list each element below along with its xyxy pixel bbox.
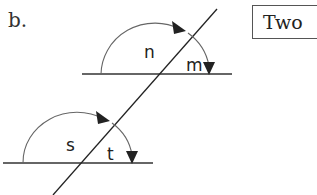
angle-label-t: t <box>107 144 114 164</box>
angle-n-arc <box>101 23 180 74</box>
angle-s-arrow-icon <box>96 111 110 124</box>
angle-label-m: m <box>186 55 203 75</box>
angle-n-arrow-icon <box>172 21 186 34</box>
angle-label-n: n <box>144 42 155 62</box>
angle-t-arrow-icon <box>126 151 138 164</box>
angle-m-arrow-icon <box>203 62 215 75</box>
angle-t-arc <box>112 123 132 155</box>
angle-label-s: s <box>66 135 75 155</box>
parallel-lines-diagram: n m s t <box>0 0 317 195</box>
angle-s-arc <box>23 112 104 163</box>
